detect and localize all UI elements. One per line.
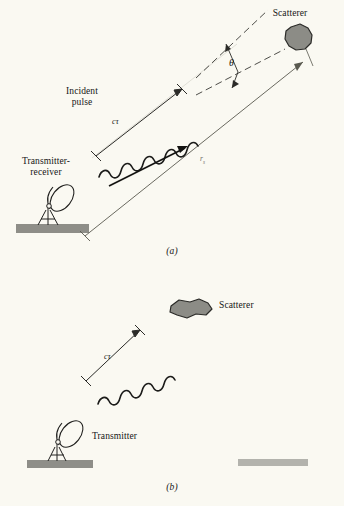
pulse-length-label-a: cτ <box>112 117 119 126</box>
antenna-a-leg-right <box>50 210 58 225</box>
scatterer-label-a: Scatterer <box>253 8 327 19</box>
radar-scattering-figure: Scatterer Incident pulse Transmitter- re… <box>0 0 344 506</box>
pulse-length-label-b: cτ <box>104 352 111 361</box>
angle-theta-arrow-bottom <box>232 80 239 88</box>
antenna-b <box>48 416 88 461</box>
panel-b-graphics <box>27 299 308 468</box>
antenna-b-leg-right <box>59 447 66 461</box>
incident-pulse-label: Incident pulse <box>46 86 118 108</box>
propagation-direction-arrow <box>109 146 188 186</box>
antenna-b-dish-face <box>54 416 87 451</box>
incident-pulse-label-line2: pulse <box>72 97 93 107</box>
panel-a-caption: (a) <box>137 246 207 257</box>
scatterer-a-connector <box>306 49 313 66</box>
antenna-a <box>38 180 79 225</box>
range-rs-label-sub: s <box>203 159 205 165</box>
ground-bar-a <box>16 224 89 233</box>
transmitter-receiver-label-line2: receiver <box>30 167 61 177</box>
antenna-b-hub <box>56 440 61 445</box>
transmitter-receiver-label: Transmitter- receiver <box>4 156 88 178</box>
panel-b-caption: (b) <box>137 482 207 493</box>
angle-theta-label: θ <box>229 57 234 69</box>
ground-bar-b-left <box>27 460 93 468</box>
scatterer-blob-b <box>170 299 212 318</box>
antenna-b-leg-left <box>48 447 55 461</box>
scatterer-label-b: Scatterer <box>219 300 254 311</box>
dashed-reference-lower <box>196 49 285 95</box>
antenna-a-hub <box>47 204 52 209</box>
transmitter-label-b: Transmitter <box>92 431 137 442</box>
pulse-length-line-b <box>86 330 140 381</box>
incident-pulse-wave-b <box>98 377 175 405</box>
pulse-length-arrow-far <box>174 89 182 96</box>
incident-pulse-label-line1: Incident <box>66 86 98 96</box>
ground-bar-b-right <box>238 459 308 466</box>
pulse-length-dimension-b <box>81 325 145 386</box>
antenna-a-leg-left <box>38 210 46 225</box>
transmitter-receiver-label-line1: Transmitter- <box>22 156 70 166</box>
range-rs-label: rs <box>200 155 205 165</box>
scatterer-blob-a <box>285 24 312 50</box>
panel-a-graphics <box>16 10 313 241</box>
range-line-rs-arrowhead <box>294 62 303 71</box>
